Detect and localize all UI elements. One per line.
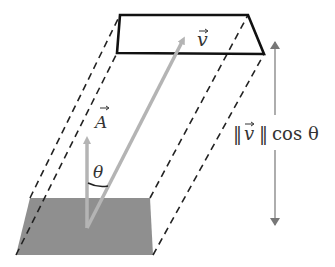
vector-arrow-accent-icon xyxy=(100,106,109,110)
svg-text:A: A xyxy=(93,112,107,132)
dashed-edge-front-right xyxy=(153,54,264,255)
svg-text:v: v xyxy=(244,123,254,144)
area-label: A xyxy=(93,106,109,132)
height-expression-label: ‖ v ‖ cos θ xyxy=(233,122,319,145)
velocity-label: v xyxy=(197,28,208,50)
angle-label: θ xyxy=(93,162,103,182)
angle-arc xyxy=(88,183,108,187)
surface-area-patch xyxy=(16,198,153,255)
svg-text:cos θ: cos θ xyxy=(272,123,319,144)
flux-diagram: v A θ ‖ v ‖ cos θ xyxy=(0,0,335,267)
svg-text:‖: ‖ xyxy=(233,123,242,145)
prism-top-face xyxy=(117,15,264,54)
svg-text:‖: ‖ xyxy=(259,123,268,145)
